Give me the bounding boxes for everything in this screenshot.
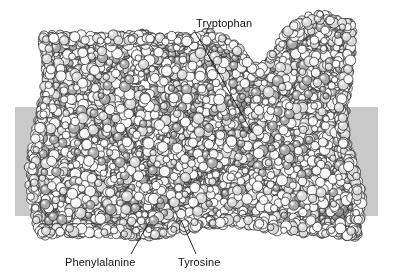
label-tryptophan: Tryptophan	[196, 17, 252, 29]
label-phenylalanine: Phenylalanine	[65, 256, 135, 268]
membrane-protein-figure: Tryptophan Phenylalanine Tyrosine	[0, 0, 393, 280]
label-tyrosine: Tyrosine	[178, 256, 220, 268]
space-filling-protein-model	[0, 0, 393, 280]
